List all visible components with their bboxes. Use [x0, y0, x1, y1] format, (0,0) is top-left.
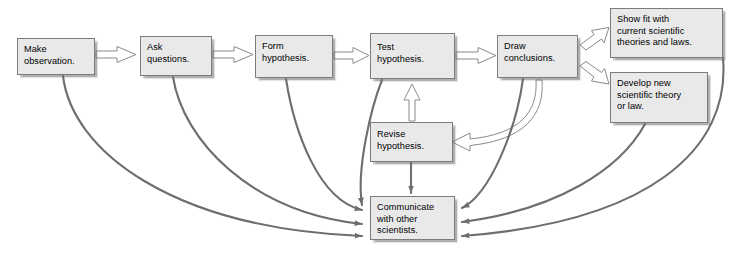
block-arrow-test-draw	[456, 48, 496, 64]
block-arrow-ask-form	[213, 47, 253, 63]
node-label: Ask questions.	[147, 42, 211, 65]
block-arrow-revise-test	[404, 84, 420, 121]
node-develop-new-theory[interactable]: Develop new scientific theory or law.	[610, 72, 708, 123]
curve-observe-communicate	[63, 76, 362, 236]
node-form-hypothesis[interactable]: Form hypothesis.	[255, 35, 333, 78]
flowchart-canvas: Make observation. Ask questions. Form hy…	[0, 0, 731, 260]
node-communicate[interactable]: Communicate with other scientists.	[370, 196, 455, 240]
node-ask-questions[interactable]: Ask questions.	[140, 36, 212, 76]
block-curve-draw-revise	[452, 80, 542, 151]
block-arrow-draw-develop	[580, 62, 609, 85]
curve-form-communicate	[286, 79, 362, 210]
curve-ask-communicate	[173, 77, 362, 224]
node-label: Revise hypothesis.	[377, 129, 452, 152]
block-arrow-form-test	[334, 48, 369, 64]
node-show-fit[interactable]: Show fit with current scientific theorie…	[610, 8, 723, 58]
node-make-observation[interactable]: Make observation.	[17, 38, 95, 75]
block-arrow-draw-showfit	[580, 28, 609, 51]
node-draw-conclusions[interactable]: Draw conclusions.	[497, 35, 578, 78]
node-revise-hypothesis[interactable]: Revise hypothesis.	[370, 122, 453, 162]
node-label: Form hypothesis.	[262, 41, 332, 64]
node-label: Show fit with current scientific theorie…	[617, 14, 722, 49]
block-arrow-observe-ask	[96, 47, 136, 63]
node-label: Test hypothesis.	[377, 42, 454, 65]
node-label: Make observation.	[24, 44, 94, 67]
node-test-hypothesis[interactable]: Test hypothesis.	[370, 33, 455, 79]
node-label: Draw conclusions.	[504, 41, 577, 64]
node-label: Develop new scientific theory or law.	[617, 78, 707, 113]
node-label: Communicate with other scientists.	[377, 202, 454, 237]
